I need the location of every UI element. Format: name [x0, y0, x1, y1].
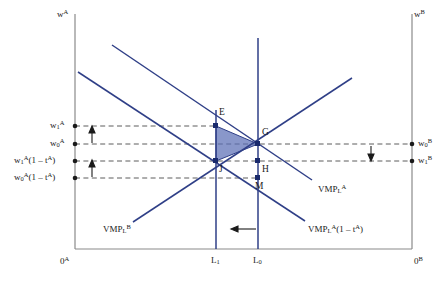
point-marker-H	[255, 158, 260, 163]
economics-diagram-figure: wA wB 0A 0B w1A w0A w1A(1 – tA) w0A(1 – …	[0, 0, 446, 285]
dot-w0B	[410, 142, 415, 147]
origin-right-label: 0B	[414, 256, 423, 266]
right-axis-label: wB	[414, 9, 425, 19]
x-tick-label-L0: L0	[253, 256, 262, 266]
point-marker-J	[213, 158, 218, 163]
dot-w1B	[410, 159, 415, 164]
curve-vmp-la-net	[78, 72, 305, 221]
point-label-J: J	[219, 165, 223, 175]
diagram-canvas	[0, 0, 446, 285]
left-arrow-upper-head	[89, 126, 95, 133]
wage-label-w0A: w0A	[50, 138, 64, 149]
point-label-H: H	[262, 165, 269, 175]
right-arrow-down-head	[368, 154, 374, 161]
dot-w0A	[73, 142, 78, 147]
axes-group	[75, 14, 412, 249]
wage-label-w0B: w0B	[418, 138, 432, 149]
labour-shift-arrow-head	[231, 226, 238, 232]
point-marker-G	[255, 141, 260, 146]
curves-group	[78, 45, 352, 222]
wage-label-w1A-net: w1A(1 – tA)	[14, 155, 55, 166]
origin-left-label: 0A	[60, 256, 69, 266]
curve-label-vmp-lb: VMPLB	[103, 224, 131, 235]
point-marker-E	[213, 123, 218, 128]
left-axis-label: wA	[57, 9, 68, 19]
wage-label-w0A-net: w0A(1 – tA)	[14, 172, 55, 183]
curve-label-vmp-la: VMPLA	[318, 184, 346, 195]
dot-w0A-net	[73, 176, 78, 181]
curve-label-vmp-la-net: VMPLA(1 – tA)	[308, 224, 363, 235]
point-label-G: G	[262, 128, 269, 138]
x-tick-label-L1: L1	[211, 256, 220, 266]
dot-w1A	[73, 124, 78, 129]
wage-label-w1A: w1A	[50, 120, 64, 131]
wage-label-w1B: w1B	[418, 155, 432, 166]
dot-w1A-net	[73, 159, 78, 164]
curve-vmp-lb	[133, 78, 352, 222]
point-label-M: M	[255, 182, 263, 192]
axis-dot-markers	[73, 124, 415, 181]
point-label-E: E	[219, 108, 225, 118]
point-marker-M	[255, 175, 260, 180]
